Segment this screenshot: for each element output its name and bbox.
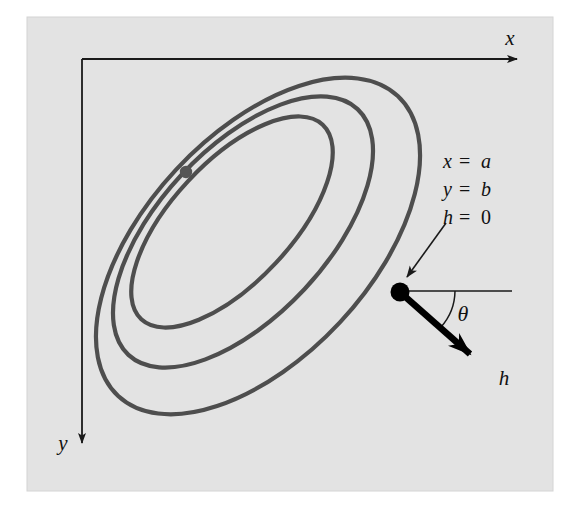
annotation-line-x: x = a [442,150,491,172]
annotation-line-y: y = b [441,178,491,201]
center-mode-marker [180,166,192,178]
point-annotation-block: x = a y = b h = 0 [441,150,491,228]
annotation-line-h: h = 0 [443,206,491,228]
figure-container: x y θ h x = a y = b [0,0,580,505]
annotation-y-equals: = [459,178,470,200]
annotation-y-value: b [481,178,491,200]
x-axis-label: x [504,26,515,50]
annotation-x-value: a [481,150,491,172]
evaluation-point-marker [391,283,410,302]
direction-vector-label: h [499,366,510,390]
annotation-h-equals: = [459,206,470,228]
annotation-x-var: x [442,150,452,172]
annotation-h-value: 0 [481,206,491,228]
annotation-x-equals: = [459,150,470,172]
annotation-h-var: h [443,206,453,228]
annotation-y-var: y [441,178,452,201]
y-axis-label: y [56,431,68,455]
angle-label: θ [458,301,469,326]
diagram-canvas: x y θ h x = a y = b [0,0,580,505]
